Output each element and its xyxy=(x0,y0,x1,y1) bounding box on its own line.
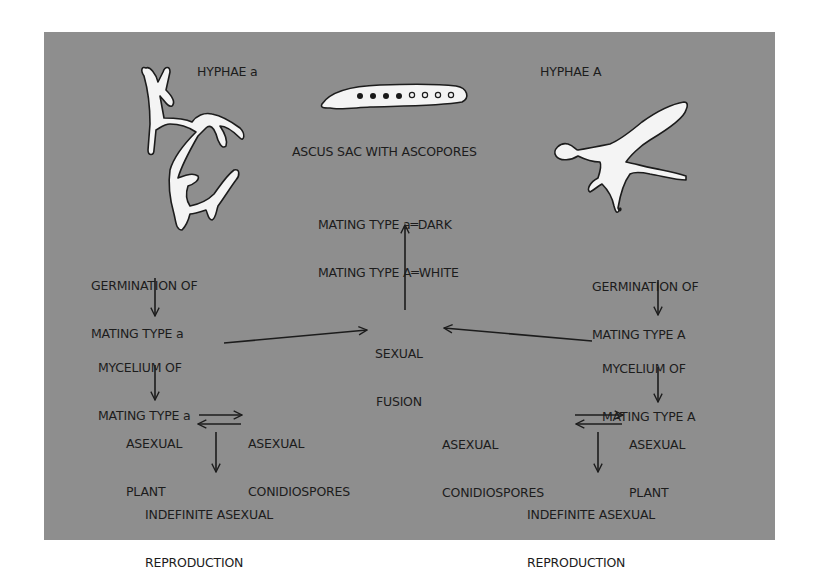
arrow-myc-A-to-fusion xyxy=(444,328,592,341)
mating-type-legend: MATING TYPE a═DARK MATING TYPE A═WHITE xyxy=(318,185,459,297)
germination-a-line1: GERMINATION OF xyxy=(91,278,197,294)
ascus-sac-label: ASCUS SAC WITH ASCOPORES xyxy=(292,144,477,160)
fusion-line2: FUSION xyxy=(375,394,423,410)
indefinite-asexual-a-node: INDEFINITE ASEXUAL REPRODUCTION xyxy=(145,475,273,570)
ascus-sac-illustration xyxy=(321,84,466,109)
legend-white: MATING TYPE A═WHITE xyxy=(318,265,459,281)
indef-A-line2: REPRODUCTION xyxy=(527,555,655,570)
sexual-fusion-node: SEXUAL FUSION xyxy=(375,314,423,426)
indef-a-line2: REPRODUCTION xyxy=(145,555,273,570)
indef-a-line1: INDEFINITE ASEXUAL xyxy=(145,507,273,523)
fusion-line1: SEXUAL xyxy=(375,346,423,362)
plant-A-line1: ASEXUAL xyxy=(629,437,685,453)
legend-dark: MATING TYPE a═DARK xyxy=(318,217,459,233)
mycelium-a-line1: MYCELIUM OF xyxy=(98,360,190,376)
hyphae-A-illustration xyxy=(555,102,687,212)
hyphae-a-illustration xyxy=(142,67,244,230)
conidio-A-line1: ASEXUAL xyxy=(442,437,544,453)
conidio-a-line1: ASEXUAL xyxy=(248,436,350,452)
germination-A-line1: GERMINATION OF xyxy=(592,279,698,295)
plant-a-line1: ASEXUAL xyxy=(126,436,182,452)
indef-A-line1: INDEFINITE ASEXUAL xyxy=(527,507,655,523)
arrow-myc-a-to-fusion xyxy=(224,330,367,343)
hyphae-a-label: HYPHAE a xyxy=(197,64,257,80)
mycelium-A-line1: MYCELIUM OF xyxy=(602,361,695,377)
hyphae-A-label: HYPHAE A xyxy=(540,64,601,80)
indefinite-asexual-A-node: INDEFINITE ASEXUAL REPRODUCTION xyxy=(527,475,655,570)
